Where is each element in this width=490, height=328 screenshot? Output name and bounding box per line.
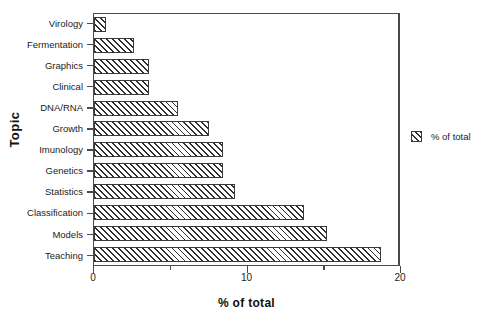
bar-row <box>94 80 398 95</box>
bar-row <box>94 247 398 262</box>
bar <box>94 17 106 32</box>
bar-row <box>94 101 398 116</box>
category-label: DNA/RNA <box>8 103 88 113</box>
bars-container <box>94 14 398 265</box>
category-label: Graphics <box>8 61 88 71</box>
bar <box>94 247 381 262</box>
chart-legend: % of total <box>411 131 471 142</box>
x-axis-title: % of total <box>93 296 400 310</box>
x-axis-tick <box>323 266 324 270</box>
category-label: Classification <box>8 208 88 218</box>
bar <box>94 163 223 178</box>
category-label: Genetics <box>8 166 88 176</box>
category-label: Teaching <box>8 251 88 261</box>
x-axis-tick-label: 0 <box>90 272 96 283</box>
bar <box>94 38 134 53</box>
bar <box>94 80 149 95</box>
bar <box>94 101 178 116</box>
category-axis-labels: Virology Fermentation Graphics Clinical … <box>8 13 88 266</box>
bar-row <box>94 142 398 157</box>
bar <box>94 59 149 74</box>
bar-row <box>94 59 398 74</box>
bar <box>94 226 327 241</box>
category-label: Imunology <box>8 145 88 155</box>
legend-swatch-icon <box>411 131 422 142</box>
x-axis-tick <box>170 266 171 270</box>
category-label: Clinical <box>8 82 88 92</box>
x-axis-tick-labels: 01020 <box>93 272 400 288</box>
category-label: Virology <box>8 19 88 29</box>
bar-row <box>94 38 398 53</box>
category-label: Growth <box>8 124 88 134</box>
x-axis-tick-label: 20 <box>394 272 405 283</box>
bar-row <box>94 184 398 199</box>
plot-area <box>93 13 400 266</box>
category-label: Models <box>8 230 88 240</box>
category-label: Statistics <box>8 187 88 197</box>
bar <box>94 205 304 220</box>
category-label: Fermentation <box>8 40 88 50</box>
legend-entry-label: % of total <box>431 131 471 142</box>
bar-row <box>94 226 398 241</box>
bar <box>94 121 209 136</box>
bar-row <box>94 205 398 220</box>
bar-row <box>94 163 398 178</box>
bar <box>94 142 223 157</box>
bar-row <box>94 121 398 136</box>
bar-row <box>94 17 398 32</box>
bar <box>94 184 235 199</box>
bar-chart: Topic Virology Fermentation Graphics Cli… <box>0 0 490 328</box>
x-axis-tick-label: 10 <box>241 272 252 283</box>
